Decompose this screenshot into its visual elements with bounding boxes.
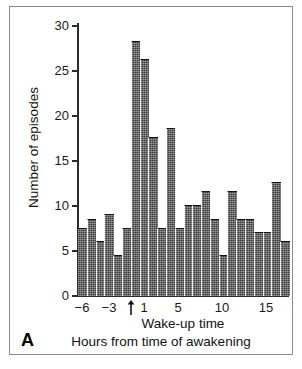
plot-area: 0 5 10 15 20 25 30 −6 −3 1 5 10 15 Numbe… <box>0 0 302 369</box>
y-axis-title: Number of episodes <box>26 68 41 228</box>
y-tick-label-5: 5 <box>29 244 69 257</box>
x-axis-title: Hours from time of awakening <box>30 334 292 349</box>
histogram-bars <box>78 23 289 296</box>
histogram-bar <box>280 241 289 296</box>
x-tick-label-10: 10 <box>207 301 237 315</box>
panel-label: A <box>21 330 34 351</box>
x-tick-label-15: 15 <box>251 301 281 315</box>
y-tick-label-0: 0 <box>29 289 69 302</box>
x-tick-label-minus3: −3 <box>94 301 124 315</box>
x-tick-label-5: 5 <box>163 301 193 315</box>
x-tick-label-minus6: −6 <box>67 301 97 315</box>
figure-panel: 0 5 10 15 20 25 30 −6 −3 1 5 10 15 Numbe… <box>0 0 302 369</box>
x-axis-subtitle: Wake-up time <box>77 316 289 331</box>
wake-up-arrow-icon <box>126 299 136 315</box>
y-tick-label-30: 30 <box>29 19 69 32</box>
